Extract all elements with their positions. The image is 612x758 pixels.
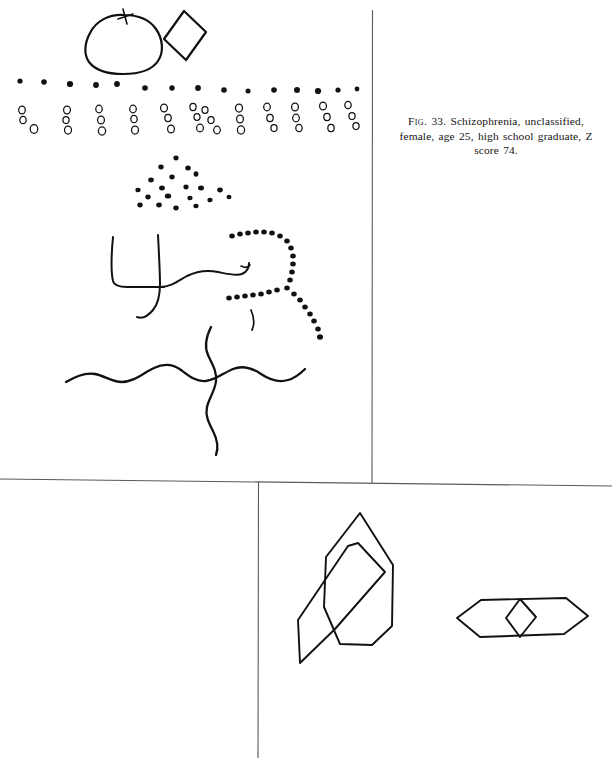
figure-3-dot	[227, 195, 232, 199]
figure-5-dot	[287, 278, 293, 283]
caption-line-1: Fig. 33. Schizophrenia, unclassified,	[385, 114, 607, 129]
figure-5-dot	[266, 290, 272, 295]
figure-5-dot	[250, 293, 256, 298]
figure-2-circle	[271, 125, 277, 132]
figure-2-column	[202, 107, 220, 134]
figure-2-column	[130, 105, 139, 134]
figure-2-circle	[237, 126, 244, 134]
figure-2-circle	[19, 106, 26, 114]
figure-2-circle	[132, 126, 139, 134]
figure-2-circle	[20, 116, 26, 123]
figure-2-column	[63, 106, 72, 134]
figure-2-circle	[296, 124, 302, 131]
figure-6-crossing-waves	[66, 327, 305, 455]
figure-3-dot	[173, 206, 178, 211]
figure-5-dot	[277, 234, 283, 239]
figure-3-dot	[187, 196, 192, 201]
figure-2-circle	[64, 106, 71, 114]
figure-5-dotted-arc-with-tail	[226, 230, 323, 340]
figure-1-dot	[271, 87, 277, 93]
figure-4-lower-hook	[251, 310, 254, 330]
figure-1-dot	[335, 87, 340, 92]
figure-5-dot	[289, 270, 295, 275]
figure-3-dot	[173, 156, 178, 161]
figure-2-circle	[264, 103, 271, 111]
figure-3-dot	[156, 203, 162, 208]
figure-6-vertical-wave	[206, 327, 218, 455]
figure-5-dot	[317, 334, 323, 339]
figure-5-dot	[229, 234, 235, 239]
figure-3-dot	[165, 193, 171, 198]
figure-1-dot	[355, 87, 360, 92]
figure-2-circle	[208, 117, 214, 124]
figure-3-dot	[169, 175, 174, 180]
figure-4-vertical-stroke	[137, 235, 160, 318]
figure-1-dot	[169, 85, 174, 90]
figure-2-circle	[194, 114, 200, 121]
figure-4-open-square	[112, 237, 165, 287]
figure-2-circle-columns	[19, 101, 359, 135]
figure-2-circle	[237, 115, 244, 123]
figure-8-inner-diamond	[506, 599, 536, 637]
figure-2-column	[320, 102, 335, 132]
figure-2-circle	[98, 127, 105, 135]
figure-3-dot-cluster	[135, 156, 231, 211]
figure-5-dot	[311, 319, 317, 324]
figure-2-column	[264, 103, 277, 131]
figure-3-dot	[135, 188, 140, 193]
figure-a-diamond	[164, 11, 206, 60]
figure-a-circle	[85, 15, 162, 74]
figure-5-dot	[237, 232, 243, 237]
figure-1-dot	[93, 82, 99, 88]
figure-8-hexagon-with-diamond	[457, 598, 588, 637]
figure-2-circle	[214, 126, 221, 134]
figure-2-circle	[65, 126, 72, 134]
figure-1-dot	[195, 85, 201, 91]
figure-2-circle	[63, 117, 69, 124]
figure-2-circle	[328, 124, 334, 131]
figure-caption: Fig. 33. Schizophrenia, unclassified, fe…	[385, 114, 607, 158]
caption-fig-label: Fig.	[408, 115, 427, 127]
figure-3-dot	[194, 171, 199, 177]
figure-2-column	[96, 105, 106, 135]
figure-2-circle	[190, 103, 196, 110]
figure-2-column	[161, 104, 175, 133]
figure-3-dot	[207, 198, 212, 203]
figure-2-circle	[197, 124, 204, 132]
figure-2-circle	[96, 105, 102, 113]
figure-5-dot	[315, 327, 321, 332]
figure-2-circle	[130, 105, 137, 113]
figure-5-dot	[288, 246, 294, 251]
figure-5-dot	[261, 230, 267, 235]
figure-2-circle	[30, 125, 38, 134]
figure-2-circle	[98, 116, 105, 124]
figure-a-circle-and-diamond	[85, 9, 206, 74]
figure-2-column	[19, 106, 38, 133]
figure-2-circle	[353, 123, 359, 130]
figure-5-dot	[291, 292, 297, 297]
horizontal-rule-middle	[0, 479, 612, 486]
figure-5-dot	[253, 230, 259, 235]
figure-2-circle	[131, 115, 137, 122]
figure-5-dot	[297, 298, 303, 303]
figure-3-dot	[185, 166, 191, 171]
figure-5-dot	[307, 312, 313, 317]
figure-2-circle	[292, 103, 299, 111]
caption-line-1-text: Schizophrenia, unclassified,	[450, 115, 584, 127]
vertical-rule-upper	[372, 10, 373, 483]
figure-2-circle	[324, 113, 330, 120]
figure-2-circle	[267, 114, 273, 121]
figure-3-dot	[217, 188, 223, 193]
figure-2-circle	[293, 114, 300, 122]
figure-3-dot	[183, 185, 188, 190]
figure-2-circle	[165, 114, 171, 121]
caption-line-3: score 74.	[385, 143, 607, 158]
figure-8-outer-hexagon	[457, 598, 588, 637]
figure-3-dot	[158, 165, 163, 170]
figure-1-row-of-dots	[17, 78, 359, 94]
figure-3-dot	[159, 186, 165, 191]
figure-2-column	[345, 101, 359, 129]
figure-1-dot	[315, 88, 321, 94]
figure-1-dot	[67, 81, 73, 87]
figure-6-horizontal-wave	[66, 365, 305, 382]
